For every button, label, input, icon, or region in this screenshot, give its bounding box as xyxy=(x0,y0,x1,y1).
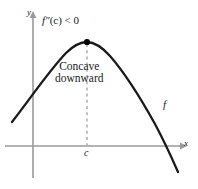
x-axis-label: x xyxy=(184,139,188,149)
maximum-point-marker xyxy=(84,39,90,45)
second-derivative-annotation: f″(c) < 0 xyxy=(42,15,79,27)
concave-line-2: downward xyxy=(55,72,104,84)
figure-canvas xyxy=(0,0,198,189)
c-tick-label: c xyxy=(84,148,88,159)
concave-downward-annotation: Concave downward xyxy=(55,60,104,85)
function-label: f xyxy=(163,99,166,111)
second-derivative-function: f″ xyxy=(42,14,50,26)
y-axis-label: y xyxy=(27,8,31,18)
concave-line-1: Concave xyxy=(55,60,104,72)
second-derivative-condition: (c) < 0 xyxy=(50,14,79,26)
concavity-figure: y x f″(c) < 0 Concave downward c f xyxy=(0,0,198,189)
